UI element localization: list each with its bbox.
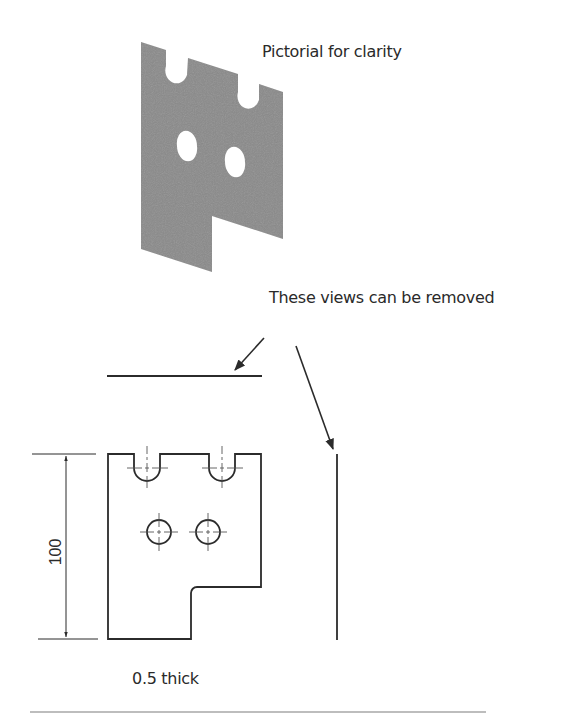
thickness-caption: 0.5 thick <box>132 669 199 688</box>
height-dimension <box>32 454 98 639</box>
hole-centerlines <box>140 513 227 551</box>
front-view <box>108 446 261 639</box>
leader-arrow-side-view <box>296 346 333 449</box>
bottom-rule <box>30 711 486 713</box>
leader-arrow-top-view <box>235 338 264 370</box>
pictorial-caption: Pictorial for clarity <box>262 42 402 61</box>
front-view-outline <box>108 454 261 639</box>
height-dimension-value: 100 <box>47 536 65 568</box>
notch-centerlines <box>127 446 243 488</box>
removable-views-caption: These views can be removed <box>269 288 494 307</box>
drawing-canvas <box>0 0 562 723</box>
pictorial-view <box>141 42 283 272</box>
pictorial-plate <box>141 42 283 272</box>
